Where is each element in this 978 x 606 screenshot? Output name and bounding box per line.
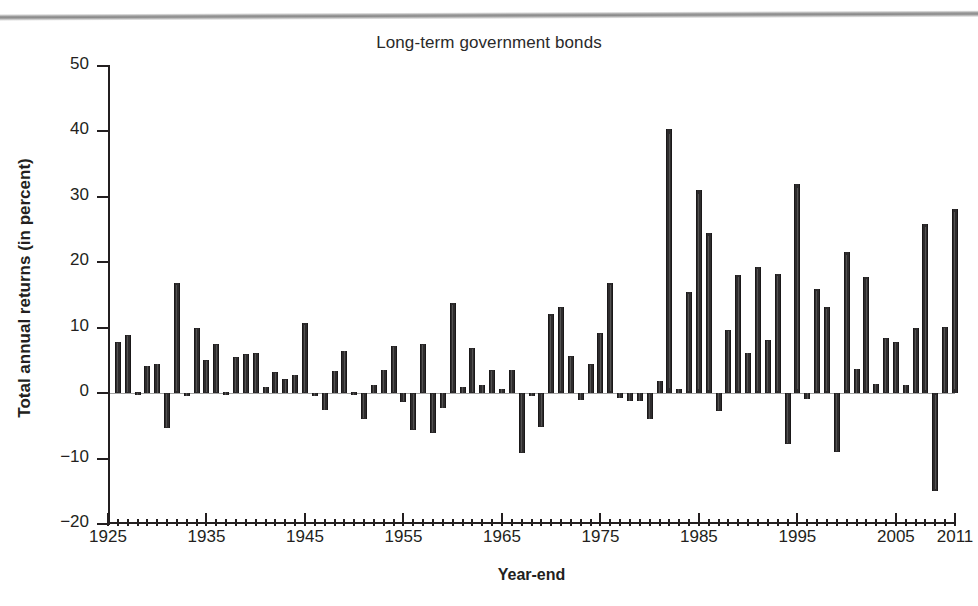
x-tick-minor xyxy=(156,519,158,526)
x-tick-major: 1955 xyxy=(402,513,404,526)
x-tick-minor xyxy=(609,519,611,526)
bar xyxy=(548,314,554,393)
x-tick-minor xyxy=(826,519,828,526)
x-tick-minor xyxy=(737,519,739,526)
x-tick-minor xyxy=(856,519,858,526)
x-tick-minor xyxy=(747,519,749,526)
bar xyxy=(420,344,426,393)
bar xyxy=(184,393,190,396)
x-tick-minor xyxy=(777,519,779,526)
y-tick-label: −20 xyxy=(60,512,89,532)
x-tick-minor xyxy=(255,519,257,526)
x-axis-title: Year-end xyxy=(108,566,955,584)
x-tick-minor xyxy=(284,519,286,526)
bar xyxy=(607,283,613,393)
x-tick-minor xyxy=(767,519,769,526)
x-tick-minor xyxy=(540,519,542,526)
bar xyxy=(706,233,712,393)
x-tick-label: 1955 xyxy=(385,527,423,547)
x-tick-minor xyxy=(915,519,917,526)
y-tick-label: 0 xyxy=(80,381,89,401)
bar xyxy=(657,381,663,393)
x-tick-minor xyxy=(146,519,148,526)
x-tick-major: 1945 xyxy=(304,513,306,526)
bar xyxy=(913,328,919,393)
bar xyxy=(804,393,810,399)
bar xyxy=(400,393,406,402)
x-tick-minor xyxy=(688,519,690,526)
bar xyxy=(755,267,761,393)
bar xyxy=(115,342,121,393)
y-tick-label: 40 xyxy=(70,119,89,139)
figure-page: Long-term government bonds Total annual … xyxy=(0,0,978,606)
x-tick-minor xyxy=(865,519,867,526)
x-tick-minor xyxy=(225,519,227,526)
y-axis-title: Total annual returns (in percent) xyxy=(15,78,35,498)
bar xyxy=(834,393,840,452)
y-tick: 40 xyxy=(97,130,110,132)
x-tick-minor xyxy=(383,519,385,526)
bar xyxy=(735,275,741,393)
x-tick-minor xyxy=(442,519,444,526)
bar xyxy=(351,392,357,395)
x-tick-major: 2011 xyxy=(954,513,956,526)
bar xyxy=(785,393,791,444)
x-tick-minor xyxy=(639,519,641,526)
x-tick-minor xyxy=(235,519,237,526)
x-tick-major: 1985 xyxy=(698,513,700,526)
x-tick-minor xyxy=(471,519,473,526)
bar xyxy=(588,364,594,393)
x-tick-minor xyxy=(334,519,336,526)
bar xyxy=(213,344,219,393)
bar xyxy=(745,353,751,394)
x-tick-minor xyxy=(245,519,247,526)
bar xyxy=(391,346,397,393)
x-tick-minor xyxy=(944,519,946,526)
x-tick-minor xyxy=(521,519,523,526)
x-tick-minor xyxy=(196,519,198,526)
x-tick-minor xyxy=(875,519,877,526)
bar xyxy=(499,389,505,394)
bar xyxy=(617,393,623,398)
x-tick-minor xyxy=(816,519,818,526)
x-tick-minor xyxy=(314,519,316,526)
x-tick-minor xyxy=(215,519,217,526)
x-tick-minor xyxy=(137,519,139,526)
bar xyxy=(725,330,731,393)
bar xyxy=(568,356,574,393)
x-tick-minor xyxy=(481,519,483,526)
bar xyxy=(361,393,367,419)
bar xyxy=(844,252,850,393)
bar xyxy=(716,393,722,411)
x-tick-minor xyxy=(885,519,887,526)
x-tick-minor xyxy=(787,519,789,526)
bar xyxy=(125,335,131,393)
bar xyxy=(371,385,377,393)
x-tick-minor xyxy=(649,519,651,526)
bar xyxy=(302,323,308,393)
x-tick-label: 1935 xyxy=(188,527,226,547)
x-tick-minor xyxy=(619,519,621,526)
bar xyxy=(529,393,535,396)
bar xyxy=(627,393,633,401)
bar xyxy=(647,393,653,419)
x-tick-minor xyxy=(629,519,631,526)
bar xyxy=(154,364,160,393)
x-tick-minor xyxy=(678,519,680,526)
x-tick-major: 1935 xyxy=(205,513,207,526)
x-tick-minor xyxy=(373,519,375,526)
bar xyxy=(430,393,436,433)
y-tick: 20 xyxy=(97,261,110,263)
bar xyxy=(824,307,830,393)
bar xyxy=(489,370,495,393)
x-tick-minor xyxy=(924,519,926,526)
bar xyxy=(893,342,899,393)
bar xyxy=(509,370,515,394)
y-tick: −10 xyxy=(97,458,110,460)
bar xyxy=(341,351,347,394)
y-tick-label: 30 xyxy=(70,185,89,205)
bar xyxy=(203,360,209,393)
x-tick-minor xyxy=(659,519,661,526)
x-tick-minor xyxy=(560,519,562,526)
bar xyxy=(164,393,170,428)
